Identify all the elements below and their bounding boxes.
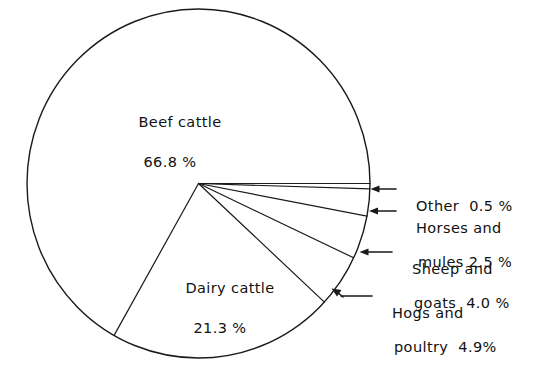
callout-hogs-and-poultry-line2: poultry 4.9% [372,339,497,356]
callout-hogs-and-poultry: Hogs and poultry 4.9% [372,288,497,378]
pie-chart-figure: Beef cattle 66.8 % Dairy cattle 21.3 % O… [0,0,542,378]
arrow-head-sheep-and-goats [360,248,369,255]
arrow-head-horses-and-mules [369,208,378,215]
pie-label-beef-cattle: Beef cattle 66.8 % [90,92,250,212]
pie-label-dairy-cattle: Dairy cattle 21.3 % [145,258,295,378]
callout-hogs-and-poultry-line1: Hogs and [392,305,464,321]
pie-label-beef-cattle-name: Beef cattle [138,114,221,130]
pie-label-dairy-cattle-value: 21.3 % [145,318,295,338]
pie-label-beef-cattle-value: 66.8 % [90,152,250,172]
pie-label-dairy-cattle-name: Dairy cattle [185,280,274,296]
callout-sheep-and-goats-line1: Sheep and [412,261,493,277]
callout-horses-and-mules-line1: Horses and [416,220,502,236]
arrow-head-other [371,186,380,193]
